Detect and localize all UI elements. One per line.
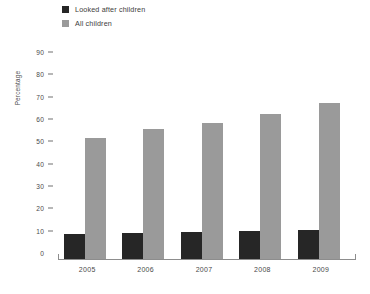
legend-swatch-all-children <box>62 20 69 27</box>
x-axis-end-tick <box>355 254 356 260</box>
bar <box>239 231 260 259</box>
chart-legend: Looked after children All children <box>62 4 145 32</box>
y-axis-tick-label: 70 <box>36 93 44 100</box>
bar <box>260 114 281 259</box>
y-axis-tick: 30 <box>36 183 58 190</box>
bar <box>181 232 202 259</box>
x-axis-line <box>58 259 356 260</box>
y-axis-tick-label: 0 <box>40 250 44 257</box>
legend-swatch-looked-after-children <box>62 6 69 13</box>
y-axis-tick-mark <box>48 52 53 53</box>
y-axis-tick-spacer <box>48 253 53 254</box>
y-axis-tick-label: 90 <box>36 49 44 56</box>
bar <box>298 230 319 259</box>
y-axis-tick: 0 <box>40 250 58 257</box>
y-axis-tick-label: 80 <box>36 71 44 78</box>
bar <box>202 123 223 259</box>
bar <box>64 234 85 259</box>
y-axis-tick-mark <box>48 230 53 231</box>
bar-group <box>175 58 233 259</box>
y-axis-tick-label: 60 <box>36 116 44 123</box>
legend-label-all-children: All children <box>75 19 112 28</box>
y-axis-tick: 70 <box>36 93 58 100</box>
y-axis-tick-label: 40 <box>36 160 44 167</box>
bar <box>319 103 340 259</box>
y-axis-tick: 50 <box>36 138 58 145</box>
y-axis-tick-mark <box>48 141 53 142</box>
y-axis-tick: 20 <box>36 205 58 212</box>
plot-area: 0102030405060708090 <box>58 58 350 260</box>
bar-groups <box>58 58 350 259</box>
legend-item-all-children: All children <box>62 18 145 29</box>
y-axis-tick: 90 <box>36 49 58 56</box>
y-axis-tick-mark <box>48 186 53 187</box>
bar-group <box>116 58 174 259</box>
legend-item-looked-after-children: Looked after children <box>62 4 145 15</box>
bar-group <box>58 58 116 259</box>
y-axis-tick-mark <box>48 163 53 164</box>
x-axis-tick-label: 2007 <box>175 266 233 273</box>
y-axis-title: Percentage <box>14 48 21 128</box>
y-axis-tick: 80 <box>36 71 58 78</box>
y-axis-tick: 10 <box>36 227 58 234</box>
x-axis-tick-label: 2006 <box>116 266 174 273</box>
x-axis-tick-label: 2008 <box>233 266 291 273</box>
y-axis-tick-label: 50 <box>36 138 44 145</box>
y-axis-tick-mark <box>48 74 53 75</box>
y-axis-start-tick <box>58 254 59 260</box>
x-axis-tick-label: 2009 <box>292 266 350 273</box>
y-axis-tick-mark <box>48 208 53 209</box>
y-axis-tick-mark <box>48 119 53 120</box>
bar-group <box>233 58 291 259</box>
y-axis-tick-label: 10 <box>36 227 44 234</box>
bar-group <box>292 58 350 259</box>
y-axis-tick: 40 <box>36 160 58 167</box>
y-axis-tick-mark <box>48 96 53 97</box>
y-axis-tick-label: 30 <box>36 183 44 190</box>
y-axis-tick: 60 <box>36 116 58 123</box>
bar <box>85 138 106 259</box>
x-axis-tick-label: 2005 <box>58 266 116 273</box>
bar <box>143 129 164 259</box>
x-axis-labels: 20052006200720082009 <box>58 266 350 273</box>
legend-label-looked-after-children: Looked after children <box>75 5 145 14</box>
bar <box>122 233 143 259</box>
y-axis-tick-label: 20 <box>36 205 44 212</box>
